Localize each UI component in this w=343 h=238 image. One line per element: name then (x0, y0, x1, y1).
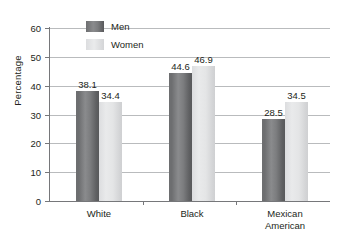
y-tick-0 (45, 201, 50, 202)
bar-value-mexican-american-men: 28.5 (264, 107, 283, 118)
x-category-label-black: Black (180, 208, 203, 220)
bar-value-white-women: 34.4 (101, 90, 120, 101)
plot-area: 60 50 40 30 20 10 0 38.1 34.4 White 44.6… (50, 28, 330, 201)
bar-black-women (192, 66, 215, 201)
gridline-50 (50, 57, 330, 58)
legend-label-men: Men (111, 21, 129, 32)
y-tick-20 (45, 143, 50, 144)
bar-value-black-men: 44.6 (171, 61, 190, 72)
x-axis-separator-1 (143, 201, 144, 205)
x-axis-line (49, 201, 330, 202)
bar-value-black-women: 46.9 (194, 54, 213, 65)
y-tick-30 (45, 115, 50, 116)
bar-value-white-men: 38.1 (78, 79, 97, 90)
y-tick-label-40: 40 (30, 80, 41, 91)
bar-mexican-american-men (262, 119, 285, 201)
legend-item-men: Men (86, 20, 129, 33)
y-tick-label-30: 30 (30, 109, 41, 120)
legend-label-women: Women (111, 39, 144, 50)
y-tick-label-60: 60 (30, 23, 41, 34)
y-tick-40 (45, 86, 50, 87)
y-tick-50 (45, 57, 50, 58)
legend-swatch-men-icon (86, 21, 104, 32)
bar-white-women (99, 102, 122, 201)
y-tick-label-0: 0 (36, 196, 41, 207)
bar-value-mexican-american-women: 34.5 (287, 90, 306, 101)
legend-item-women: Women (86, 38, 144, 51)
x-category-label-white: White (87, 208, 111, 220)
x-category-label-mexican-american: Mexican American (265, 208, 305, 231)
bar-black-men (169, 73, 192, 202)
y-tick-60 (45, 28, 50, 29)
bar-chart: Percentage 60 50 40 30 20 10 0 38.1 34. (0, 0, 343, 238)
y-axis-title: Percentage (12, 31, 23, 131)
y-tick-10 (45, 172, 50, 173)
y-tick-label-50: 50 (30, 51, 41, 62)
bar-white-men (76, 91, 99, 201)
y-tick-label-20: 20 (30, 138, 41, 149)
x-axis-separator-2 (236, 201, 237, 205)
legend-swatch-women-icon (86, 39, 104, 50)
y-tick-label-10: 10 (30, 167, 41, 178)
bar-mexican-american-women (285, 102, 308, 201)
